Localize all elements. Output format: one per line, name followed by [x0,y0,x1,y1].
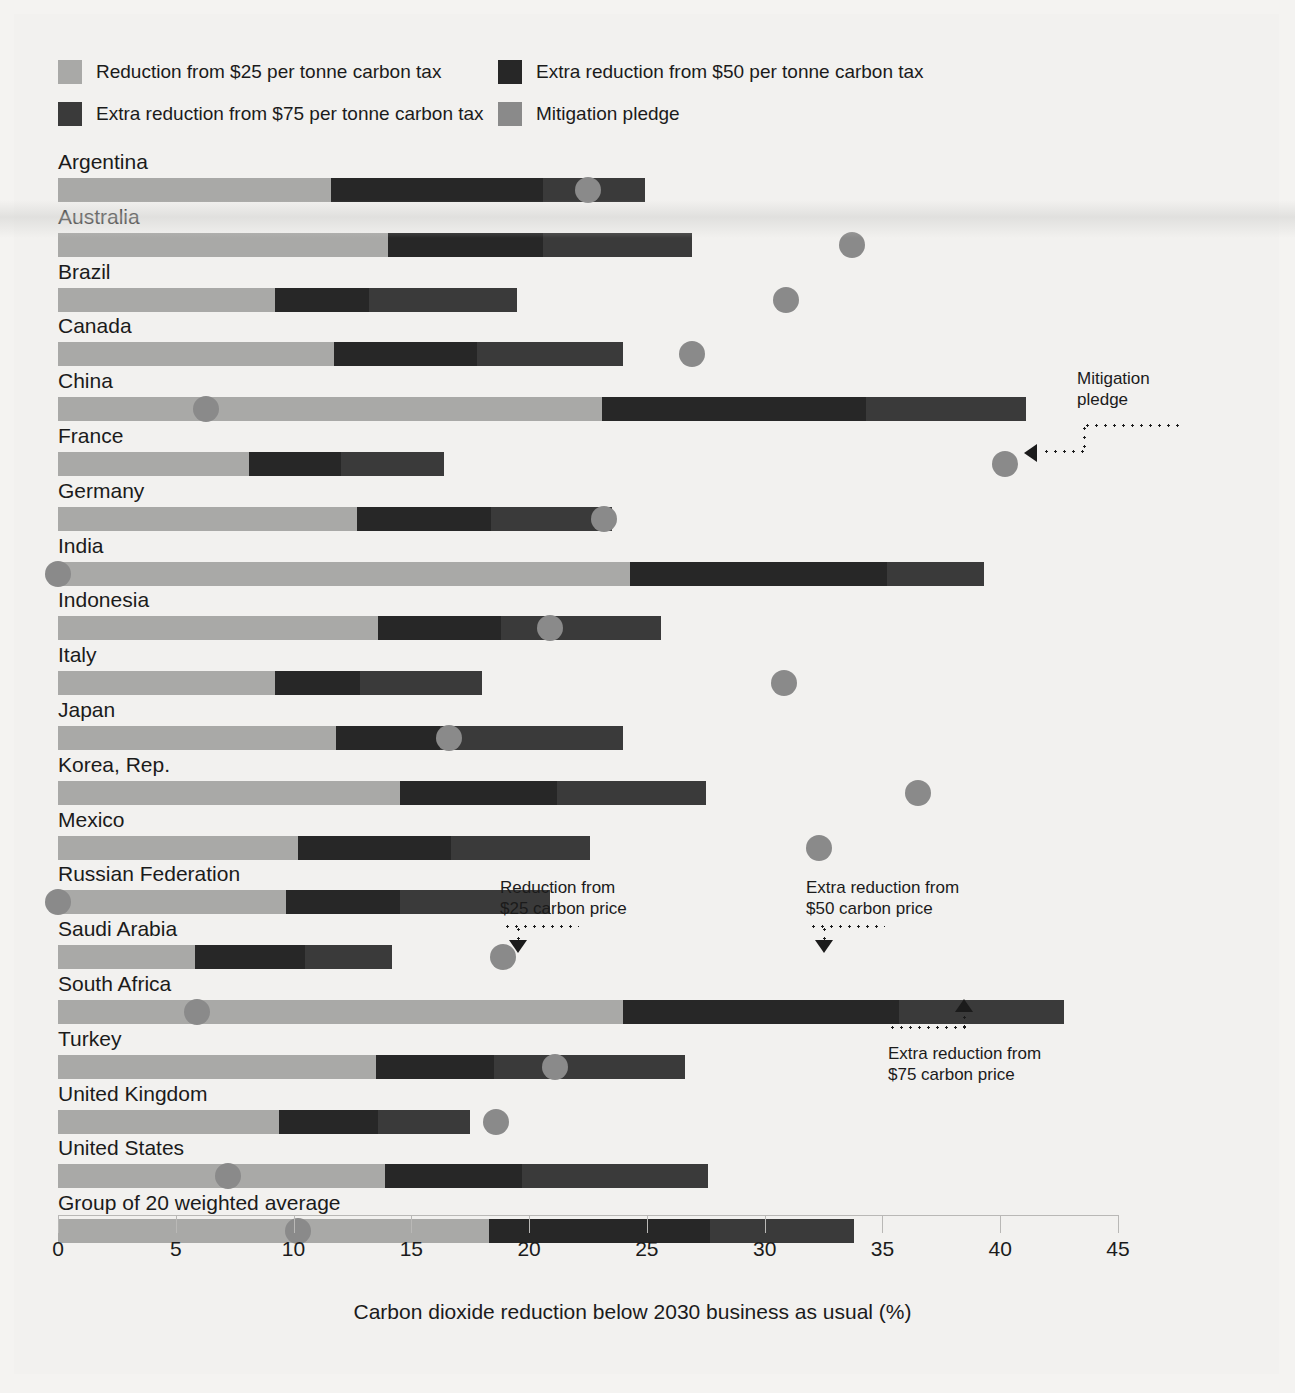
bar-segment[interactable] [58,397,602,421]
bar-segment[interactable] [630,562,887,586]
bar-segment[interactable] [58,671,275,695]
bar-australia[interactable] [58,233,692,257]
bar-segment[interactable] [440,726,624,750]
bar-segment[interactable] [557,781,705,805]
bar-france[interactable] [58,452,444,476]
bar-segment[interactable] [360,671,482,695]
bar-segment[interactable] [385,1164,522,1188]
bar-mexico[interactable] [58,836,590,860]
bar-united-states[interactable] [58,1164,708,1188]
row-label-group-of-20-weighted-average: Group of 20 weighted average [58,1191,341,1215]
bar-segment[interactable] [501,616,661,640]
pledge-dot[interactable] [992,451,1018,477]
bar-korea-rep-[interactable] [58,781,706,805]
legend-item-tax50[interactable]: Extra reduction from $50 per tonne carbo… [498,60,924,84]
pledge-dot[interactable] [215,1163,241,1189]
bar-segment[interactable] [298,836,451,860]
bar-segment[interactable] [58,507,357,531]
bar-segment[interactable] [522,1164,708,1188]
bar-segment[interactable] [58,1110,279,1134]
bar-segment[interactable] [58,945,195,969]
pledge-dot[interactable] [542,1054,568,1080]
bar-segment[interactable] [388,233,543,257]
bar-segment[interactable] [58,342,334,366]
axis-tick-label: 30 [753,1237,776,1261]
pledge-dot[interactable] [45,561,71,587]
bar-argentina[interactable] [58,178,645,202]
bar-germany[interactable] [58,507,612,531]
bar-segment[interactable] [451,836,590,860]
bar-turkey[interactable] [58,1055,685,1079]
bar-segment[interactable] [58,890,286,914]
axis-tick [1118,1215,1119,1233]
bar-segment[interactable] [357,507,491,531]
bar-segment[interactable] [58,288,275,312]
bar-indonesia[interactable] [58,616,661,640]
bar-segment[interactable] [494,1055,685,1079]
bar-brazil[interactable] [58,288,517,312]
bar-segment[interactable] [400,781,558,805]
bar-segment[interactable] [334,342,478,366]
bar-segment[interactable] [602,397,866,421]
bar-italy[interactable] [58,671,482,695]
pledge-dot[interactable] [436,725,462,751]
bar-segment[interactable] [58,616,378,640]
legend-item-pledge[interactable]: Mitigation pledge [498,102,680,126]
bar-canada[interactable] [58,342,623,366]
bar-segment[interactable] [58,233,388,257]
bar-segment[interactable] [249,452,341,476]
bar-segment[interactable] [275,671,360,695]
bar-segment[interactable] [623,1000,899,1024]
row-label-mexico: Mexico [58,808,125,832]
legend-swatch-tax75 [58,102,82,126]
bar-segment[interactable] [58,1055,376,1079]
bar-segment[interactable] [378,616,500,640]
pledge-dot[interactable] [839,232,865,258]
bar-segment[interactable] [369,288,517,312]
legend-item-tax75[interactable]: Extra reduction from $75 per tonne carbo… [58,102,498,126]
pledge-dot[interactable] [483,1109,509,1135]
annotation-extra-reduction-50: Extra reduction from $50 carbon price [806,877,959,919]
bar-segment[interactable] [275,288,369,312]
pledge-dot[interactable] [184,999,210,1025]
pledge-dot[interactable] [575,177,601,203]
bar-segment[interactable] [887,562,984,586]
row-label-canada: Canada [58,314,132,338]
bar-japan[interactable] [58,726,623,750]
pledge-dot[interactable] [806,835,832,861]
bar-segment[interactable] [58,452,249,476]
bar-segment[interactable] [195,945,306,969]
bar-segment[interactable] [899,1000,1064,1024]
bar-segment[interactable] [341,452,445,476]
bar-segment[interactable] [378,1110,470,1134]
chart-row: Turkey [0,1027,1265,1082]
bar-segment[interactable] [336,726,440,750]
pledge-dot[interactable] [591,506,617,532]
bar-segment[interactable] [58,836,298,860]
bar-segment[interactable] [305,945,392,969]
bar-saudi-arabia[interactable] [58,945,392,969]
pledge-dot[interactable] [905,780,931,806]
bar-segment[interactable] [58,562,630,586]
bar-segment[interactable] [331,178,543,202]
bar-segment[interactable] [279,1110,378,1134]
bar-segment[interactable] [58,1000,623,1024]
bar-united-kingdom[interactable] [58,1110,470,1134]
pledge-dot[interactable] [771,670,797,696]
bar-india[interactable] [58,562,984,586]
pledge-dot[interactable] [773,287,799,313]
bar-segment[interactable] [477,342,623,366]
chart-row: United States [0,1136,1265,1191]
bar-segment[interactable] [376,1055,494,1079]
bar-segment[interactable] [543,233,691,257]
legend-item-tax25[interactable]: Reduction from $25 per tonne carbon tax [58,60,498,84]
bar-segment[interactable] [58,781,400,805]
bar-segment[interactable] [58,178,331,202]
pledge-dot[interactable] [679,341,705,367]
bar-segment[interactable] [58,726,336,750]
chart-row: Germany [0,479,1265,534]
bar-segment[interactable] [286,890,399,914]
annotation-reduction-25-arrow-icon [509,940,527,953]
bar-segment[interactable] [866,397,1026,421]
bar-russian-federation[interactable] [58,890,550,914]
